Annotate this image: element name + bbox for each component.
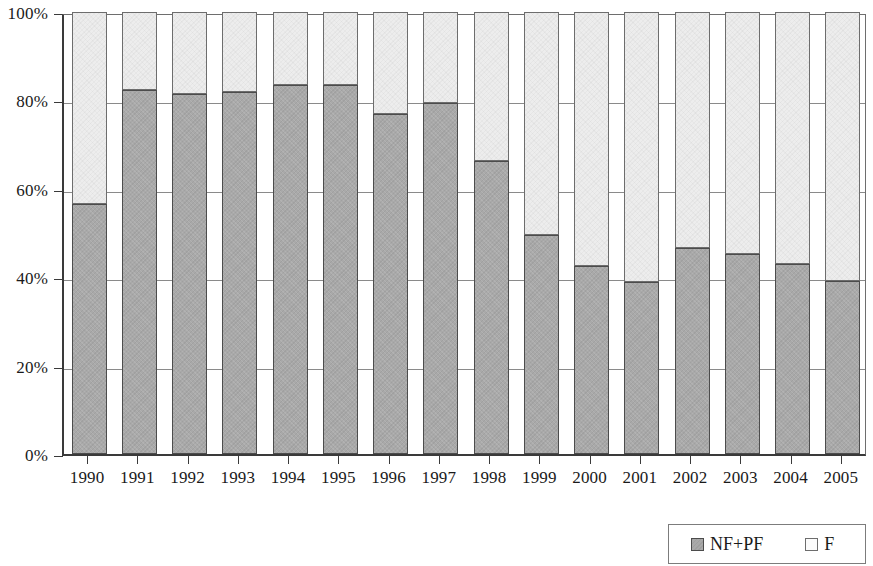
x-axis-tick [640,456,641,464]
bar-2005 [825,12,860,454]
bar-1993 [222,12,257,454]
bar-segment-nf-pf-1997 [423,103,458,454]
bar-segment-f-1996 [373,12,408,114]
x-axis-tick [489,456,490,464]
bar-segment-f-2005 [825,12,860,281]
x-axis-tick [740,456,741,464]
bar-segment-f-2001 [624,12,659,282]
bar-2002 [675,12,710,454]
bar-segment-f-2002 [675,12,710,248]
y-axis-label: 100% [0,5,48,22]
y-axis-label: 20% [0,359,48,376]
bar-segment-nf-pf-1998 [474,161,509,454]
bar-1995 [323,12,358,454]
legend-entry-f: F [805,535,834,553]
legend-swatch-gray [691,538,704,551]
x-axis-tick [791,456,792,464]
y-axis-label: 0% [0,447,48,464]
bar-segment-f-2004 [775,12,810,264]
x-axis-tick [238,456,239,464]
bar-1992 [172,12,207,454]
bar-1994 [273,12,308,454]
x-axis-tick [137,456,138,464]
bar-segment-f-1991 [122,12,157,90]
x-axis-tick [87,456,88,464]
legend-label: F [824,535,834,553]
chart-legend: NF+PFF [668,524,866,564]
bar-1998 [474,12,509,454]
bar-1991 [122,12,157,454]
bar-2001 [624,12,659,454]
bar-1999 [524,12,559,454]
bar-1990 [72,12,107,454]
x-axis-tick [539,456,540,464]
bar-segment-nf-pf-1992 [172,94,207,454]
x-axis-tick [439,456,440,464]
legend-swatch-white [805,538,818,551]
bar-2004 [775,12,810,454]
bar-segment-nf-pf-2005 [825,281,860,454]
plot-area [62,14,866,456]
bar-segment-f-2000 [574,12,609,266]
bar-1997 [423,12,458,454]
bar-segment-nf-pf-1994 [273,85,308,455]
bar-segment-f-1994 [273,12,308,84]
bar-segment-nf-pf-2001 [624,282,659,454]
y-axis-tick [54,456,63,457]
bar-segment-nf-pf-1999 [524,235,559,454]
x-axis-tick [188,456,189,464]
bar-segment-nf-pf-1995 [323,85,358,455]
bar-segment-nf-pf-2004 [775,264,810,454]
bar-segment-nf-pf-1996 [373,114,408,454]
bar-segment-nf-pf-2000 [574,266,609,454]
y-axis-label: 80% [0,93,48,110]
x-axis-label-2005: 2005 [811,468,871,488]
bar-segment-f-1997 [423,12,458,103]
bar-segment-nf-pf-1991 [122,90,157,454]
x-axis-tick [690,456,691,464]
bar-segment-f-1993 [222,12,257,92]
x-axis-tick [590,456,591,464]
x-axis-tick [288,456,289,464]
bar-1996 [373,12,408,454]
x-axis-tick [338,456,339,464]
bar-segment-f-1998 [474,12,509,161]
bar-segment-nf-pf-2003 [725,254,760,454]
x-axis-tick [841,456,842,464]
bar-2003 [725,12,760,454]
bar-segment-f-1992 [172,12,207,94]
bar-segment-nf-pf-1990 [72,204,107,454]
bar-segment-nf-pf-2002 [675,248,710,454]
stacked-bar-chart: 0%20%40%60%80%100% 199019911992199319941… [0,0,873,566]
bar-segment-f-2003 [725,12,760,254]
bar-segment-f-1990 [72,12,107,204]
y-axis-label: 40% [0,270,48,287]
bar-2000 [574,12,609,454]
y-axis-label: 60% [0,182,48,199]
legend-entry-nf-pf: NF+PF [691,535,763,553]
legend-label: NF+PF [710,535,763,553]
x-axis-tick [389,456,390,464]
bar-segment-f-1995 [323,12,358,84]
bar-segment-nf-pf-1993 [222,92,257,454]
bar-segment-f-1999 [524,12,559,235]
